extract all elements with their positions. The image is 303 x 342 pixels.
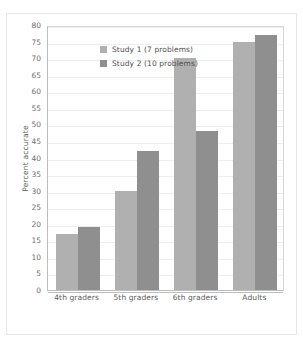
plot-area: Study 1 (7 problems)Study 2 (10 problems… <box>47 26 284 291</box>
x-axis-tick-label: 5th graders <box>106 293 165 302</box>
legend: Study 1 (7 problems)Study 2 (10 problems… <box>100 45 198 68</box>
y-axis-tick-label: 60 <box>31 89 41 97</box>
y-axis-tick-label: 70 <box>31 55 41 63</box>
page-scan-artifact <box>0 0 303 12</box>
bar <box>174 58 196 290</box>
bar <box>233 42 255 290</box>
bar <box>115 191 137 290</box>
y-axis-tick-label: 50 <box>31 122 41 130</box>
bar <box>137 151 159 290</box>
x-axis-tick-label: 6th graders <box>166 293 225 302</box>
y-axis-tick-label: 80 <box>31 22 41 30</box>
y-axis-tick-label: 5 <box>36 271 41 279</box>
bar <box>78 227 100 290</box>
y-axis-tick-label: 55 <box>31 105 41 113</box>
legend-swatch <box>100 46 107 53</box>
bar <box>56 234 78 290</box>
legend-label: Study 2 (10 problems) <box>112 59 198 68</box>
bar-group <box>48 27 107 290</box>
legend-entry: Study 2 (10 problems) <box>100 59 198 68</box>
figure-frame: Percent accurate 05101520253035404550556… <box>6 13 297 335</box>
y-axis-tick-label: 35 <box>31 171 41 179</box>
y-axis-tick-label: 0 <box>36 287 41 295</box>
x-axis-tick-labels: 4th graders5th graders6th gradersAdults <box>47 293 284 309</box>
x-axis-tick-label: 4th graders <box>47 293 106 302</box>
legend-entry: Study 1 (7 problems) <box>100 45 198 54</box>
x-axis-tick-label: Adults <box>225 293 284 302</box>
y-axis-tick-label: 65 <box>31 72 41 80</box>
y-axis-tick-label: 15 <box>31 238 41 246</box>
legend-swatch <box>100 60 107 67</box>
y-axis-tick-label: 25 <box>31 204 41 212</box>
y-axis-tick-label: 40 <box>31 155 41 163</box>
bar <box>255 35 277 290</box>
legend-label: Study 1 (7 problems) <box>112 45 193 54</box>
bar-group <box>226 27 285 290</box>
y-axis-tick-label: 30 <box>31 188 41 196</box>
y-axis-tick-labels: 05101520253035404550556065707580 <box>7 26 45 291</box>
y-axis-tick-label: 10 <box>31 254 41 262</box>
bar <box>196 131 218 290</box>
y-axis-tick-label: 20 <box>31 221 41 229</box>
y-axis-tick-label: 45 <box>31 138 41 146</box>
y-axis-tick-label: 75 <box>31 39 41 47</box>
bar-chart: Percent accurate 05101520253035404550556… <box>7 14 298 336</box>
